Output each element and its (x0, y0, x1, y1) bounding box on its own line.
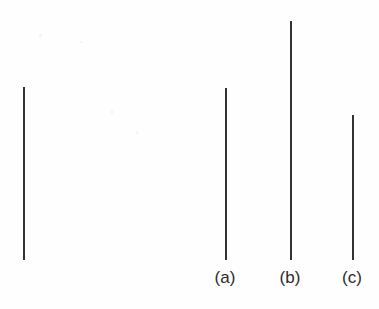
figure-canvas: (a) (b) (c) (0, 0, 379, 309)
line-label-a: (a) (205, 269, 245, 286)
comparison-line-a (225, 88, 227, 260)
comparison-line-b (290, 21, 292, 260)
line-label-c: (c) (332, 269, 372, 286)
scan-speckle (111, 110, 113, 114)
scan-speckle (136, 131, 138, 134)
scan-speckle (80, 41, 82, 43)
line-label-b: (b) (270, 269, 310, 286)
comparison-line-c (352, 115, 354, 260)
scan-speckle (39, 34, 42, 37)
reference-line (23, 87, 25, 260)
